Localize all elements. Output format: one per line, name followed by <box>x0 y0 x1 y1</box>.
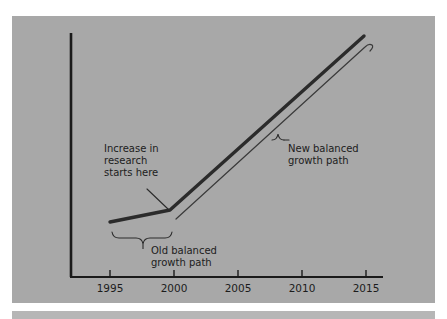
increase-label: Increase in research starts here <box>104 143 159 178</box>
x-tick-label-2015: 2015 <box>353 282 380 294</box>
x-tick-label-2010: 2010 <box>289 282 316 294</box>
new-path-label-line1: New balanced <box>288 143 359 154</box>
x-tick-label-1995: 1995 <box>97 282 124 294</box>
increase-label-line1: Increase in <box>104 143 159 154</box>
growth-path-chart: 1995 2000 2005 2010 2015 Old balanced gr… <box>0 0 447 319</box>
x-axis-tick-labels: 1995 2000 2005 2010 2015 <box>97 282 380 294</box>
old-path-label-line2: growth path <box>151 257 212 268</box>
new-path-label-line2: growth path <box>288 155 349 166</box>
new-path-label: New balanced growth path <box>288 143 359 166</box>
increase-label-line3: starts here <box>104 167 158 178</box>
old-path-label: Old balanced growth path <box>151 245 217 268</box>
new-path-bracket <box>272 134 289 140</box>
x-tick-label-2000: 2000 <box>161 282 188 294</box>
figure-page: 1995 2000 2005 2010 2015 Old balanced gr… <box>0 0 447 319</box>
old-growth-path-line <box>176 44 373 219</box>
new-growth-path-line <box>110 36 364 222</box>
increase-label-line2: research <box>104 155 147 166</box>
old-path-label-line1: Old balanced <box>151 245 217 256</box>
increase-leader-line <box>147 189 168 209</box>
x-tick-label-2005: 2005 <box>225 282 252 294</box>
